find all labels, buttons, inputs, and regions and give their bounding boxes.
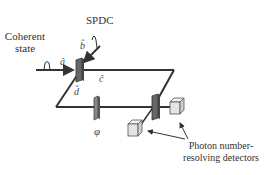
phase-label: φ — [94, 125, 100, 137]
beam-splitter-1 — [76, 58, 84, 82]
pointer-arrow-2 — [180, 123, 188, 139]
spdc-beam-b — [84, 36, 100, 62]
mode-b-label: b̂ — [80, 40, 85, 51]
detector-right — [170, 98, 184, 114]
beam-splitter-2 — [152, 94, 160, 120]
mode-a-label: â — [60, 56, 65, 67]
coherent-label-line2: state — [0, 42, 50, 54]
input-beam-a — [36, 62, 73, 71]
pointer-arrow-1 — [148, 131, 185, 139]
mode-c-label: ĉ — [99, 73, 103, 84]
detectors-label-line1: Photon number- — [178, 140, 264, 152]
spdc-label: SPDC — [86, 14, 114, 26]
mode-d-label: d̂ — [74, 86, 79, 97]
detector-left — [128, 120, 142, 136]
phase-shifter — [94, 96, 100, 120]
coherent-label-line1: Coherent — [0, 30, 50, 42]
coherent-state-label: Coherent state — [0, 30, 50, 54]
detectors-label-line2: resolving detectors — [178, 152, 264, 164]
detectors-label: Photon number- resolving detectors — [178, 140, 264, 164]
